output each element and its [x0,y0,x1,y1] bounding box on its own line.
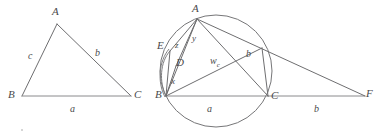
left-vertex-label-A: A [52,6,59,17]
left-vertex-label-B: B [8,89,15,100]
right-segment-label-z: z [175,41,179,50]
segment-cross-to-c [262,48,268,96]
wc-subscript: c [217,61,220,69]
right-vertex-label-E: E [157,40,164,51]
left-vertex-label-C: C [134,89,141,100]
right-vertex-label-D: D [176,57,184,68]
left-side-label-a: a [70,104,75,114]
right-side-label-wc: wc [210,56,220,69]
right-vertex-label-F: F [366,88,373,99]
segment-af [197,19,365,96]
left-side-label-c: c [28,51,32,61]
figure-canvas: A B C c b a A B C D E F a b b wc x y z [0,0,387,140]
geometry-figure [0,0,387,140]
right-side-label-b-extension: b [314,104,319,114]
scan-speck [21,129,23,131]
right-vertex-label-A: A [192,3,199,14]
segment-ac [197,19,268,96]
right-side-label-b: b [246,49,251,59]
right-segment-label-y: y [192,34,196,43]
left-side-label-b: b [95,48,100,58]
right-circle-group [160,15,365,127]
right-vertex-label-B: B [155,89,162,100]
left-triangle-group [22,24,131,96]
right-segment-label-x: x [171,77,175,86]
wc-base: w [210,55,217,66]
left-side-b [57,24,131,96]
right-vertex-label-C: C [271,90,278,101]
right-side-label-a: a [207,104,212,114]
